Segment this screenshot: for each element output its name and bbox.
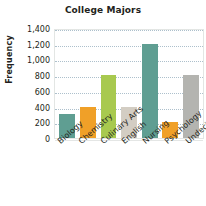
page-text-sliver bbox=[0, 199, 206, 206]
chart-title: College Majors bbox=[0, 5, 206, 15]
y-tick-label-0: 0 bbox=[6, 135, 50, 144]
y-tick-label-1000: 1,000 bbox=[6, 56, 50, 65]
y-tick-label-1200: 1,200 bbox=[6, 40, 50, 49]
y-axis-tick-labels: 02004006008001,0001,2001,400 bbox=[4, 29, 50, 139]
bar-chart-college-majors: College Majors Frequency 02004006008001,… bbox=[0, 0, 206, 206]
y-tick-label-600: 600 bbox=[6, 87, 50, 96]
y-tick-label-800: 800 bbox=[6, 72, 50, 81]
x-axis-tick-labels: BiologyChemistryCulinary ArtsEnglishNurs… bbox=[54, 139, 204, 199]
y-tick-label-1400: 1,400 bbox=[6, 25, 50, 34]
y-tick-label-200: 200 bbox=[6, 119, 50, 128]
y-tick-label-400: 400 bbox=[6, 103, 50, 112]
